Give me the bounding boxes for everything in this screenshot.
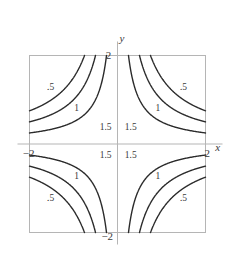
contour-curve	[140, 166, 206, 232]
contour-label: .5	[180, 193, 187, 203]
contour-label: 1	[74, 171, 79, 181]
contour-plot-figure: .5.5111.51.5.5.5111.51.51.51.511.5.51.51…	[0, 0, 239, 255]
contour-curve	[30, 177, 85, 232]
contour-curve	[30, 155, 107, 232]
contour-label: 1.5	[125, 150, 137, 160]
contour-curve	[30, 56, 107, 133]
contour-label: 1.5	[125, 122, 137, 132]
axis-tick-label: 2	[205, 147, 211, 159]
contour-label: 1	[156, 103, 161, 113]
tick-labels-group: −222−2	[23, 49, 210, 242]
contour-label: 1.5	[100, 122, 112, 132]
contour-label: .5	[47, 193, 54, 203]
plot-canvas: .5.5111.51.5.5.5111.51.51.51.511.5.51.51…	[0, 0, 239, 255]
contour-curve	[129, 56, 206, 133]
contour-label: 1	[156, 171, 161, 181]
axis-tick-label: −2	[101, 230, 113, 242]
axes-group	[18, 42, 223, 245]
contour-label: .5	[180, 82, 187, 92]
axis-tick-label: 2	[106, 49, 112, 61]
contour-curve	[140, 56, 206, 122]
axis-tick-label: −2	[23, 147, 35, 159]
contour-label: .5	[47, 82, 54, 92]
contour-label: 1.5	[100, 150, 112, 160]
contour-curve	[151, 177, 206, 232]
x-axis-label: x	[214, 141, 220, 153]
contour-curve	[30, 166, 96, 232]
contour-curve	[129, 155, 206, 232]
y-axis-label: y	[118, 32, 124, 44]
contour-label: 1	[74, 103, 79, 113]
contour-curve	[30, 56, 96, 122]
